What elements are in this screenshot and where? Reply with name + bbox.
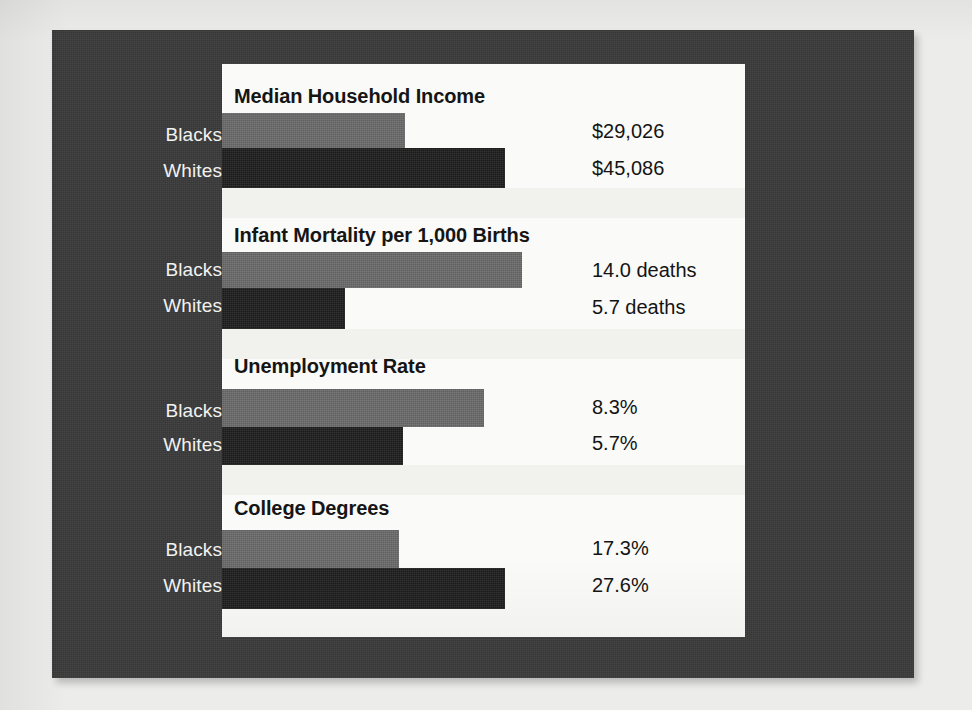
section-divider-1	[222, 188, 745, 218]
figure-root: Blacks Whites Blacks Whites Blacks White…	[0, 0, 972, 710]
bar-whites-college-degrees	[222, 568, 505, 609]
row-label-whites-mortality: Whites	[72, 296, 222, 315]
value-blacks-unemployment-rate: 8.3%	[592, 397, 638, 417]
value-blacks-infant-mortality: 14.0 deaths	[592, 260, 697, 280]
bar-whites-median-household-income	[222, 148, 505, 188]
value-whites-unemployment-rate: 5.7%	[592, 433, 638, 453]
bar-blacks-unemployment-rate	[222, 389, 484, 427]
chart-card: Median Household Income $29,026 $45,086 …	[222, 64, 745, 637]
bar-whites-unemployment-rate	[222, 427, 403, 465]
section-title-unemployment-rate: Unemployment Rate	[234, 356, 426, 376]
value-whites-college-degrees: 27.6%	[592, 575, 649, 595]
value-blacks-college-degrees: 17.3%	[592, 538, 649, 558]
row-label-blacks-unemployment: Blacks	[72, 401, 222, 420]
row-label-whites-college: Whites	[72, 576, 222, 595]
section-title-median-household-income: Median Household Income	[234, 86, 485, 106]
row-labels-layer: Blacks Whites Blacks Whites Blacks White…	[52, 30, 222, 678]
bar-blacks-college-degrees	[222, 530, 399, 568]
row-label-whites-income: Whites	[72, 161, 222, 180]
bar-blacks-infant-mortality	[222, 252, 522, 288]
row-label-blacks-college: Blacks	[72, 540, 222, 559]
value-blacks-median-household-income: $29,026	[592, 121, 664, 141]
row-label-whites-unemployment: Whites	[72, 435, 222, 454]
section-title-infant-mortality: Infant Mortality per 1,000 Births	[234, 225, 530, 245]
value-whites-median-household-income: $45,086	[592, 158, 664, 178]
section-divider-3	[222, 465, 745, 495]
section-title-college-degrees: College Degrees	[234, 498, 389, 518]
value-whites-infant-mortality: 5.7 deaths	[592, 297, 685, 317]
row-label-blacks-mortality: Blacks	[72, 260, 222, 279]
bar-blacks-median-household-income	[222, 113, 405, 148]
row-label-blacks-income: Blacks	[72, 125, 222, 144]
bar-whites-infant-mortality	[222, 288, 345, 329]
